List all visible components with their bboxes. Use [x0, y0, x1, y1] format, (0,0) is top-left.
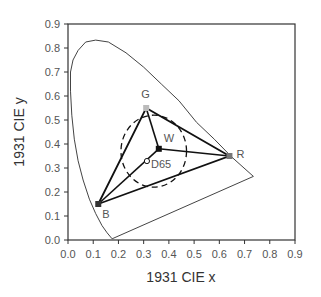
x-tick-label: 0.3 — [136, 248, 151, 260]
gamut-triangle — [98, 108, 229, 204]
y-tick-label: 0.2 — [45, 186, 60, 198]
y-tick-label: 0.6 — [45, 90, 60, 102]
cie-chromaticity-chart: RGBWD65 0.00.10.20.30.40.50.60.70.80.9 0… — [0, 0, 321, 297]
spectral-locus — [71, 40, 254, 239]
y-axis-ticks: 0.00.10.20.30.40.50.60.70.80.9 — [45, 18, 68, 246]
primary-label-b: B — [102, 208, 109, 220]
x-tick-label: 0.2 — [111, 248, 126, 260]
d65-marker — [144, 158, 149, 163]
primary-label-r: R — [236, 148, 244, 160]
y-tick-label: 0.9 — [45, 18, 60, 30]
line-w-to-b — [98, 149, 159, 204]
x-tick-label: 0.0 — [60, 248, 75, 260]
x-tick-label: 0.7 — [237, 248, 252, 260]
x-tick-label: 0.6 — [212, 248, 227, 260]
x-tick-label: 0.4 — [161, 248, 176, 260]
y-tick-label: 0.8 — [45, 42, 60, 54]
x-tick-label: 0.1 — [86, 248, 101, 260]
y-tick-label: 0.5 — [45, 114, 60, 126]
primary-marker-g — [143, 105, 149, 111]
primary-marker-r — [226, 153, 232, 159]
primary-marker-b — [95, 201, 101, 207]
data-points: RGBWD65 — [95, 88, 244, 220]
spectral-locus-curve — [71, 40, 254, 239]
d65-label: D65 — [151, 158, 171, 170]
x-axis-ticks: 0.00.10.20.30.40.50.60.70.80.9 — [60, 240, 302, 260]
x-tick-label: 0.5 — [186, 248, 201, 260]
primary-label-g: G — [141, 88, 150, 100]
x-tick-label: 0.8 — [262, 248, 277, 260]
white-point-w-label: W — [164, 132, 175, 144]
y-tick-label: 0.3 — [45, 162, 60, 174]
x-axis-title: 1931 CIE x — [146, 269, 215, 285]
y-axis-title: 1931 CIE y — [11, 97, 27, 166]
y-tick-label: 0.4 — [45, 138, 60, 150]
gamut-outline — [98, 108, 229, 204]
x-tick-label: 0.9 — [287, 248, 302, 260]
white-point-w-marker — [156, 146, 162, 152]
y-tick-label: 0.7 — [45, 66, 60, 78]
y-tick-label: 0.0 — [45, 234, 60, 246]
y-tick-label: 0.1 — [45, 210, 60, 222]
